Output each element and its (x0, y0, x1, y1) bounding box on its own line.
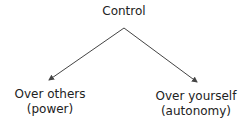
child-label-line1: Over yourself (148, 89, 244, 104)
child-label-line2: (power) (5, 102, 95, 117)
root-node: Control (94, 4, 154, 19)
child-label-line2: (autonomy) (148, 104, 244, 119)
child-label-line1: Over others (5, 87, 95, 102)
child-node-others: Over others (power) (5, 87, 95, 117)
child-node-yourself: Over yourself (autonomy) (148, 89, 244, 119)
edge-to-yourself (124, 28, 197, 82)
root-label: Control (102, 4, 145, 18)
edge-to-others (49, 28, 124, 80)
